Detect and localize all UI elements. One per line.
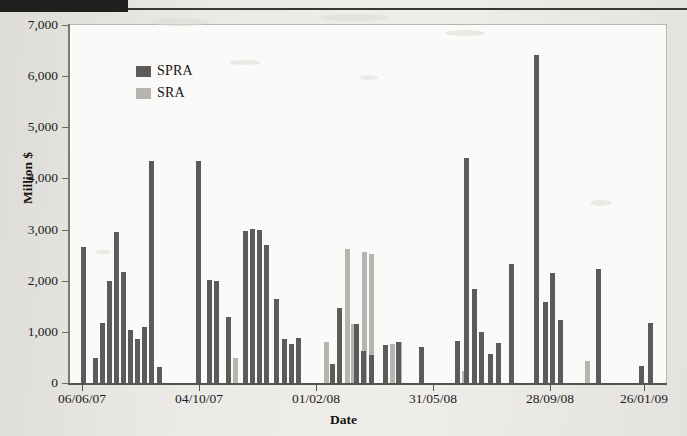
bar-sra — [233, 358, 238, 383]
y-axis-tick-label: 1,000 — [4, 325, 58, 339]
y-axis-tick-label: 3,000 — [4, 223, 58, 237]
scan-speckle — [150, 18, 210, 26]
bar-spra — [128, 330, 133, 383]
bar-spra — [639, 366, 644, 383]
x-axis-tick-label: 01/02/08 — [270, 392, 362, 407]
legend-swatch-sra — [136, 88, 151, 99]
legend-item-sra: SRA — [136, 82, 193, 104]
bar-spra — [479, 332, 484, 383]
bar-spra — [550, 273, 555, 383]
bar-spra — [330, 364, 335, 383]
bar-spra — [196, 161, 201, 383]
bar-spra — [157, 367, 162, 383]
y-axis-tick-label: 6,000 — [4, 69, 58, 83]
bar-spra — [361, 351, 366, 383]
y-axis-tick-label: 2,000 — [4, 274, 58, 288]
legend-swatch-spra — [136, 66, 151, 77]
bar-spra — [543, 302, 548, 383]
bar-spra — [534, 55, 539, 383]
scan-speckle — [320, 14, 390, 21]
bar-spra — [464, 158, 469, 383]
bar-spra — [135, 339, 140, 383]
x-axis-tick-label: 31/05/08 — [387, 392, 479, 407]
bar-spra — [274, 299, 279, 383]
x-axis-tick-label: 06/06/07 — [36, 392, 128, 407]
bar-spra — [149, 161, 154, 383]
y-axis-tick-label: 7,000 — [4, 18, 58, 32]
bar-spra — [488, 354, 493, 383]
bar-spra — [472, 289, 477, 383]
bar-sra — [390, 344, 395, 383]
bar-spra — [226, 317, 231, 383]
legend-item-spra: SPRA — [136, 60, 193, 82]
bar-spra — [289, 344, 294, 383]
bar-spra — [419, 347, 424, 383]
bar-spra — [121, 272, 126, 383]
x-axis-tick-label: 26/01/09 — [598, 392, 687, 407]
y-axis-tick — [62, 281, 69, 282]
y-axis-tick — [62, 383, 69, 384]
bar-spra — [455, 341, 460, 383]
chart-legend: SPRA SRA — [136, 60, 193, 104]
bar-sra — [585, 361, 590, 384]
bar-spra — [142, 327, 147, 383]
bar-spra — [243, 231, 248, 383]
bar-spra — [648, 323, 653, 383]
bar-spra — [369, 355, 374, 383]
y-axis-tick-label: 5,000 — [4, 120, 58, 134]
bar-sra — [345, 249, 350, 383]
bar-spra — [250, 229, 255, 383]
bar-spra — [509, 264, 514, 383]
bar-spra — [354, 324, 359, 383]
y-axis-tick — [62, 332, 69, 333]
bar-spra — [558, 320, 563, 383]
bar-spra — [496, 343, 501, 383]
bar-spra — [337, 308, 342, 383]
y-axis-tick — [62, 127, 69, 128]
bar-spra — [93, 358, 98, 383]
y-axis-tick — [62, 76, 69, 77]
y-axis-tick-label: 4,000 — [4, 171, 58, 185]
bar-spra — [282, 339, 287, 383]
bar-spra — [264, 245, 269, 383]
x-axis-tick-label: 28/09/08 — [504, 392, 596, 407]
bar-spra — [207, 280, 212, 383]
bar-spra — [81, 247, 86, 383]
bar-spra — [383, 345, 388, 383]
bar-sra — [324, 342, 329, 383]
y-axis-tick — [62, 230, 69, 231]
scan-speckle — [360, 75, 378, 80]
bar-spra — [257, 230, 262, 383]
x-axis-tick-label: 04/10/07 — [153, 392, 245, 407]
chart-figure: Million $ Date SPRA SRA 01,0002,0003,000… — [0, 0, 687, 436]
bar-spra — [396, 342, 401, 383]
y-axis-tick — [62, 25, 69, 26]
bar-series-container — [0, 0, 687, 436]
bar-spra — [107, 281, 112, 383]
bar-spra — [100, 323, 105, 383]
bar-spra — [114, 232, 119, 383]
bar-spra — [214, 281, 219, 383]
legend-label-spra: SPRA — [157, 63, 193, 79]
scan-speckle — [590, 200, 612, 206]
scan-speckle — [95, 250, 111, 254]
bar-spra — [296, 338, 301, 383]
y-axis-tick — [62, 178, 69, 179]
legend-label-sra: SRA — [157, 85, 185, 101]
y-axis-tick-label: 0 — [4, 376, 58, 390]
scan-speckle — [230, 60, 260, 65]
bar-spra — [596, 269, 601, 383]
scan-speckle — [445, 30, 485, 36]
